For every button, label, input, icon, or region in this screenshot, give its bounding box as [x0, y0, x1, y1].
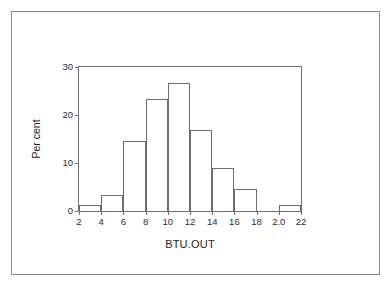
plot-area: 0102030 246810121416182.022 — [78, 66, 302, 212]
x-tick-label: 10 — [163, 217, 174, 227]
y-tick-mark — [75, 67, 79, 68]
x-tick-mark — [168, 211, 169, 215]
x-tick-label: 18 — [251, 217, 262, 227]
y-tick-mark — [75, 115, 79, 116]
x-tick-mark — [79, 211, 80, 215]
x-axis-title: BTU.OUT — [78, 238, 302, 250]
x-tick-mark — [212, 211, 213, 215]
x-tick-mark — [123, 211, 124, 215]
y-axis-title: Per cent — [30, 119, 42, 158]
x-tick-mark — [257, 211, 258, 215]
y-tick-label: 20 — [62, 110, 73, 120]
x-tick-mark — [146, 211, 147, 215]
x-tick-label: 4 — [99, 217, 104, 227]
x-tick-label: 8 — [143, 217, 148, 227]
x-tick-label: 16 — [229, 217, 240, 227]
x-tick-mark — [101, 211, 102, 215]
x-tick-label: 2.0 — [272, 217, 285, 227]
y-tick-label: 0 — [68, 206, 73, 216]
x-tick-label: 22 — [296, 217, 307, 227]
x-tick-mark — [234, 211, 235, 215]
y-tick-label: 10 — [62, 158, 73, 168]
x-tick-label: 6 — [121, 217, 126, 227]
x-tick-mark — [279, 211, 280, 215]
x-tick-label: 2 — [76, 217, 81, 227]
y-tick-label: 30 — [62, 62, 73, 72]
x-tick-label: 12 — [185, 217, 196, 227]
x-tick-label: 14 — [207, 217, 218, 227]
y-axis: 0102030 — [79, 67, 301, 211]
y-tick-mark — [75, 163, 79, 164]
x-tick-mark — [190, 211, 191, 215]
x-tick-mark — [301, 211, 302, 215]
histogram-figure: 0102030 246810121416182.022 BTU.OUT Per … — [0, 0, 391, 287]
